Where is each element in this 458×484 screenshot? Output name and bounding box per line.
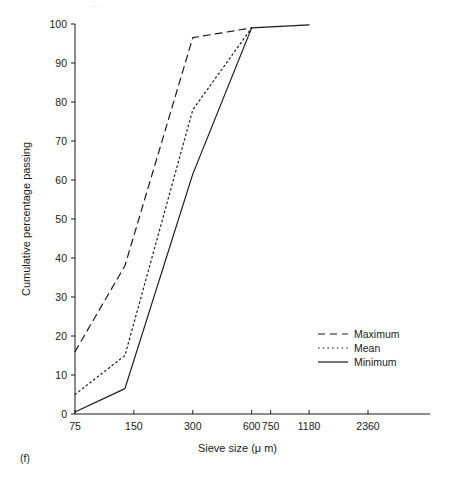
series-line-maximum [75, 28, 252, 352]
axis-labels-group: 0102030405060708090100751503006007501180… [20, 18, 380, 454]
x-tick-label: 600 [243, 420, 261, 432]
y-tick-label: 100 [49, 18, 67, 30]
chart-legend: MaximumMeanMinimum [318, 328, 400, 368]
y-tick-label: 70 [55, 135, 67, 147]
x-axis-title: Sieve size (μ m) [198, 442, 277, 454]
x-tick-label: 1180 [298, 420, 321, 432]
x-tick-label: 300 [184, 420, 202, 432]
y-tick-label: 10 [55, 369, 67, 381]
legend-label-minimum: Minimum [354, 356, 397, 368]
data-series-group [75, 25, 309, 412]
y-tick-label: 90 [55, 57, 67, 69]
y-tick-label: 20 [55, 330, 67, 342]
legend-label-maximum: Maximum [354, 328, 400, 340]
y-tick-label: 30 [55, 291, 67, 303]
y-tick-label: 0 [61, 408, 67, 420]
x-tick-label: 75 [69, 420, 81, 432]
panel-label: (f) [20, 452, 30, 464]
x-tick-label: 150 [125, 420, 143, 432]
series-line-minimum [75, 25, 309, 412]
legend-label-mean: Mean [354, 342, 380, 354]
x-tick-label: 750 [262, 420, 280, 432]
panel-label-group: (f) [20, 452, 30, 464]
top-edge-artifact: ··· [90, 1, 102, 11]
y-tick-label: 60 [55, 174, 67, 186]
y-axis-title: Cumulative percentage passing [20, 142, 32, 296]
x-tick-label: 2360 [356, 420, 380, 432]
series-line-mean [75, 28, 252, 395]
figure-container: ··· 010203040506070809010075150300600750… [0, 0, 458, 484]
sieve-analysis-chart: 0102030405060708090100751503006007501180… [0, 0, 458, 484]
y-tick-label: 80 [55, 96, 67, 108]
y-tick-label: 40 [55, 252, 67, 264]
y-tick-label: 50 [55, 213, 67, 225]
